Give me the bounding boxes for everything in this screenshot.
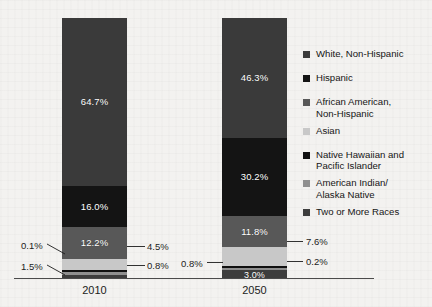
legend-swatch-icon bbox=[303, 209, 310, 216]
leader-line-2050-american-indian bbox=[207, 261, 223, 264]
segment-2010-white: 64.7% bbox=[62, 18, 127, 186]
segment-label-2010-african-american: 12.2% bbox=[81, 237, 108, 248]
leader-line-2050-asian bbox=[287, 240, 303, 243]
segment-label-2010-white: 64.7% bbox=[81, 96, 108, 107]
legend-label: White, Non-Hispanic bbox=[316, 48, 403, 59]
legend-label: Two or More Races bbox=[316, 206, 399, 217]
callout-2050-asian: 7.6% bbox=[306, 236, 328, 247]
leader-line-2050-native-hawaiian bbox=[287, 260, 303, 263]
segment-label-2050-white: 46.3% bbox=[241, 72, 268, 83]
legend-item-two-or-more-races[interactable]: Two or More Races bbox=[303, 206, 431, 217]
segment-2050-hispanic: 30.2% bbox=[222, 138, 287, 216]
x-axis-label-2010: 2010 bbox=[62, 284, 127, 296]
legend-swatch-icon bbox=[303, 128, 310, 135]
legend-swatch-icon bbox=[303, 180, 310, 187]
callout-2010-native-hawaiian: 0.1% bbox=[21, 240, 43, 251]
segment-2050-asian bbox=[222, 247, 287, 267]
leader-line-2010-american-indian bbox=[127, 264, 145, 267]
leader-line-2010-asian bbox=[127, 245, 145, 248]
legend-item-white-non-hispanic[interactable]: White, Non-Hispanic bbox=[303, 48, 431, 59]
segment-2050-white: 46.3% bbox=[222, 18, 287, 138]
callout-2010-asian: 4.5% bbox=[147, 241, 169, 252]
segment-label-2050-hispanic: 30.2% bbox=[241, 171, 268, 182]
legend-item-african-american-non-hispanic[interactable]: African American, Non-Hispanic bbox=[303, 96, 431, 118]
segment-2010-asian bbox=[62, 259, 127, 271]
segment-label-2050-african-american: 11.8% bbox=[241, 226, 268, 237]
legend-item-asian[interactable]: Asian bbox=[303, 125, 431, 136]
baseline-axis bbox=[14, 278, 374, 279]
legend-item-hispanic[interactable]: Hispanic bbox=[303, 72, 431, 83]
legend-swatch-icon bbox=[303, 152, 310, 159]
callout-2050-native-hawaiian: 0.2% bbox=[306, 256, 328, 267]
bar-2010: 64.7% 16.0% 12.2% bbox=[62, 18, 127, 277]
legend: White, Non-Hispanic Hispanic African Ame… bbox=[303, 48, 431, 217]
callout-2010-two-or-more: 1.5% bbox=[21, 261, 43, 272]
callout-2050-american-indian: 0.8% bbox=[181, 258, 203, 269]
segment-2010-hispanic: 16.0% bbox=[62, 186, 127, 227]
legend-swatch-icon bbox=[303, 99, 310, 106]
leader-line-2010-native-hawaiian bbox=[46, 243, 66, 255]
legend-label: Hispanic bbox=[316, 72, 353, 83]
legend-label: African American, Non-Hispanic bbox=[316, 96, 391, 118]
bar-2050: 46.3% 30.2% 11.8% 3.0% bbox=[222, 18, 287, 277]
legend-label: American Indian/ Alaska Native bbox=[316, 177, 388, 199]
stacked-bar-chart: 64.7% 16.0% 12.2% 46.3% 30.2% 11.8% 3.0% bbox=[0, 0, 432, 307]
legend-swatch-icon bbox=[303, 75, 310, 82]
legend-label: Native Hawaiian and Pacific Islander bbox=[316, 149, 404, 171]
legend-item-american-indian-alaska-native[interactable]: American Indian/ Alaska Native bbox=[303, 177, 431, 199]
legend-item-native-hawaiian-pacific-islander[interactable]: Native Hawaiian and Pacific Islander bbox=[303, 149, 431, 171]
x-axis-label-2050: 2050 bbox=[222, 284, 287, 296]
segment-label-2010-hispanic: 16.0% bbox=[81, 201, 108, 212]
leader-line-2010-two-or-more bbox=[46, 264, 66, 276]
legend-label: Asian bbox=[316, 125, 340, 136]
legend-swatch-icon bbox=[303, 51, 310, 58]
segment-2010-african-american: 12.2% bbox=[62, 227, 127, 259]
segment-2050-african-american: 11.8% bbox=[222, 216, 287, 247]
callout-2010-american-indian: 0.8% bbox=[147, 260, 169, 271]
